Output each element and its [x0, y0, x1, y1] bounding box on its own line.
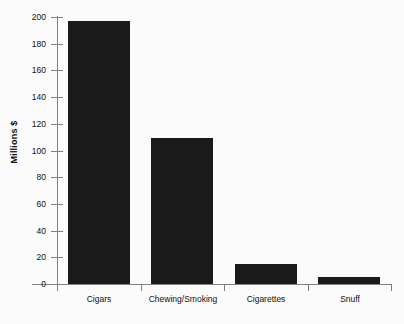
category-label-snuff: Snuff [308, 294, 392, 304]
y-tick-mark [51, 17, 63, 18]
y-tick-mark [51, 97, 63, 98]
x-axis-line [32, 284, 392, 285]
y-tick-label: 160 [20, 65, 46, 75]
y-tick-mark [51, 204, 63, 205]
y-tick-label: 0 [20, 279, 46, 289]
bar-snuff [318, 277, 380, 284]
y-tick-mark [51, 231, 63, 232]
x-tick-mark [224, 284, 225, 291]
bar-cigars [68, 21, 130, 284]
y-tick-label: 60 [20, 199, 46, 209]
y-tick-mark [51, 124, 63, 125]
bar-chart: Millions $ 020406080100120140160180200 C… [0, 0, 404, 324]
category-label-cigars: Cigars [57, 294, 141, 304]
y-tick-label: 120 [20, 119, 46, 129]
y-tick-mark [51, 70, 63, 71]
y-tick-label: 200 [20, 12, 46, 22]
y-tick-label: 140 [20, 92, 46, 102]
y-tick-mark [51, 44, 63, 45]
y-tick-mark [51, 177, 63, 178]
category-label-cigarettes: Cigarettes [224, 294, 308, 304]
y-tick-mark [51, 257, 63, 258]
bar-chewing-smoking [151, 138, 213, 284]
x-tick-mark [391, 284, 392, 291]
y-tick-mark [51, 151, 63, 152]
bar-cigarettes [235, 264, 297, 284]
y-tick-label: 40 [20, 226, 46, 236]
x-tick-mark [141, 284, 142, 291]
x-tick-mark [57, 284, 58, 291]
x-tick-mark [308, 284, 309, 291]
y-axis-title-text: Millions $ [8, 120, 18, 163]
y-tick-label: 20 [20, 252, 46, 262]
y-tick-label: 100 [20, 146, 46, 156]
y-tick-label: 80 [20, 172, 46, 182]
category-label-chewing-smoking: Chewing/Smoking [141, 294, 225, 304]
y-tick-label: 180 [20, 39, 46, 49]
